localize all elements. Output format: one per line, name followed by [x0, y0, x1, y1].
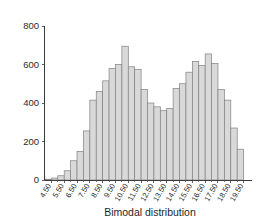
histogram-bar [115, 65, 121, 181]
histogram-bar [135, 69, 141, 180]
bar-series [45, 46, 244, 180]
histogram-bar [173, 89, 179, 180]
x-axis-ticks: 4.505.506.507.508.509.5010.5011.5012.501… [38, 180, 245, 203]
histogram-bar [180, 84, 186, 180]
chart-canvas: 0200400600800 4.505.506.507.508.509.5010… [0, 0, 266, 223]
y-tick-label: 400 [23, 97, 39, 108]
y-tick-label: 0 [34, 174, 39, 185]
histogram-bar [109, 68, 115, 180]
histogram-bar [224, 100, 230, 180]
y-axis-ticks: 0200400600800 [23, 20, 45, 185]
x-tick-label: 7.50 [76, 182, 91, 199]
histogram-bar [154, 107, 160, 180]
histogram-bar [218, 90, 224, 180]
histogram-bar [160, 111, 166, 180]
x-tick-label: 19.50 [228, 182, 245, 203]
histogram-bar [167, 108, 173, 180]
y-tick-label: 200 [23, 136, 39, 147]
histogram-bar [205, 54, 211, 180]
histogram-bar [45, 179, 51, 180]
histogram-bar [237, 149, 243, 180]
histogram-chart: 0200400600800 4.505.506.507.508.509.5010… [0, 0, 266, 223]
x-tick-label: 4.50 [38, 182, 53, 199]
histogram-bar [96, 91, 102, 180]
histogram-bar [231, 128, 237, 180]
x-tick-label: 8.50 [89, 182, 104, 199]
y-tick-label: 600 [23, 59, 39, 70]
histogram-bar [128, 67, 134, 180]
histogram-bar [90, 100, 96, 180]
histogram-bar [186, 72, 192, 180]
histogram-bar [148, 103, 154, 180]
x-tick-label: 6.50 [64, 182, 79, 199]
histogram-bar [83, 131, 89, 180]
histogram-bar [71, 161, 77, 180]
histogram-bar [77, 152, 83, 180]
x-axis-title: Bimodal distribution [104, 206, 196, 218]
histogram-bar [51, 178, 57, 180]
histogram-bar [58, 176, 64, 180]
histogram-bar [212, 64, 218, 180]
histogram-bar [192, 62, 198, 180]
y-tick-label: 800 [23, 20, 39, 31]
histogram-bar [199, 65, 205, 180]
x-tick-label: 5.50 [51, 182, 66, 199]
histogram-bar [64, 171, 70, 180]
histogram-bar [141, 90, 147, 180]
histogram-bar [122, 46, 128, 180]
histogram-bar [103, 81, 109, 180]
